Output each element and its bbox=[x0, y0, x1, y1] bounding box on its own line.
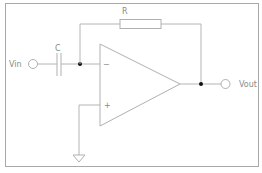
wire-feedback-right bbox=[161, 24, 201, 84]
inverting-input-label: − bbox=[103, 60, 110, 69]
vin-terminal bbox=[29, 60, 38, 69]
vout-label: Vout bbox=[239, 80, 257, 89]
resistor-symbol bbox=[120, 20, 161, 29]
wire-ground bbox=[79, 105, 100, 155]
vout-terminal bbox=[221, 80, 230, 89]
capacitor-symbol bbox=[57, 53, 61, 76]
non-inverting-input-label: + bbox=[104, 101, 111, 110]
resistor-label: R bbox=[122, 7, 128, 16]
junction-node-output bbox=[199, 82, 203, 86]
ground-icon bbox=[73, 155, 85, 162]
op-amp-symbol bbox=[100, 44, 180, 126]
vin-label: Vin bbox=[9, 60, 22, 69]
circuit-diagram: Vin C R − + Vout bbox=[0, 0, 262, 173]
capacitor-label: C bbox=[55, 44, 61, 53]
